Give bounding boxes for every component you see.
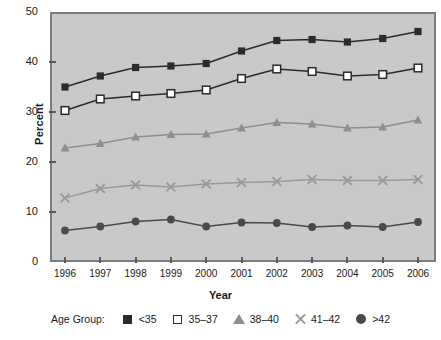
- data-point-open-square: [202, 86, 210, 94]
- data-point-circle: [414, 218, 422, 226]
- legend-item[interactable]: 35–37: [171, 312, 218, 326]
- legend-item-label: 38–40: [250, 313, 279, 325]
- data-point-filled-square: [203, 60, 210, 67]
- legend-item-label: 35–37: [189, 313, 218, 325]
- data-point-circle: [238, 219, 246, 227]
- legend-item[interactable]: <35: [121, 312, 157, 326]
- data-point-open-square: [97, 95, 105, 103]
- legend-item-label: <35: [139, 313, 157, 325]
- legend-item[interactable]: 38–40: [232, 312, 279, 326]
- open-square-icon: [171, 312, 185, 326]
- data-point-circle: [61, 227, 69, 235]
- series-41–42: [61, 175, 423, 202]
- data-point-filled-square: [414, 28, 421, 35]
- data-point-filled-square: [379, 35, 386, 42]
- data-point-circle: [308, 223, 316, 231]
- data-point-filled-square: [309, 36, 316, 43]
- data-point-filled-square: [97, 72, 104, 79]
- data-point-circle: [344, 222, 352, 230]
- data-point-x: [61, 194, 70, 203]
- series-layer: [0, 0, 441, 340]
- circle-icon: [354, 312, 368, 326]
- data-point-open-square: [308, 68, 316, 76]
- data-point-circle: [273, 219, 281, 227]
- line-chart: Percent Year 01020304050 199619971998199…: [0, 0, 441, 340]
- legend: Age Group: <3535–3738–4041–42>42: [0, 312, 441, 326]
- data-point-circle: [132, 218, 140, 226]
- series->42: [61, 216, 422, 235]
- data-point-open-square: [167, 90, 175, 98]
- data-point-open-square: [61, 107, 69, 115]
- data-point-open-square: [414, 64, 422, 72]
- data-point-circle: [96, 223, 104, 231]
- legend-item[interactable]: >42: [354, 312, 390, 326]
- legend-item-label: >42: [372, 313, 390, 325]
- data-point-filled-square: [132, 64, 139, 71]
- data-point-filled-square: [344, 38, 351, 45]
- x-icon: [293, 312, 307, 326]
- filled-square-icon: [121, 312, 135, 326]
- data-point-circle: [202, 223, 210, 231]
- data-point-triangle: [414, 116, 423, 124]
- data-point-open-square: [238, 75, 246, 83]
- data-point-filled-square: [273, 37, 280, 44]
- data-point-circle: [167, 216, 175, 224]
- legend-item-label: 41–42: [311, 313, 340, 325]
- data-point-open-square: [344, 72, 352, 80]
- series-38–40: [61, 116, 423, 152]
- data-point-filled-square: [238, 47, 245, 54]
- data-point-open-square: [379, 71, 387, 79]
- data-point-circle: [379, 223, 387, 231]
- data-point-open-square: [273, 65, 281, 73]
- data-point-filled-square: [61, 83, 68, 90]
- triangle-icon: [232, 312, 246, 326]
- data-point-open-square: [132, 92, 140, 100]
- legend-title: Age Group:: [51, 313, 105, 325]
- legend-item[interactable]: 41–42: [293, 312, 340, 326]
- data-point-filled-square: [167, 62, 174, 69]
